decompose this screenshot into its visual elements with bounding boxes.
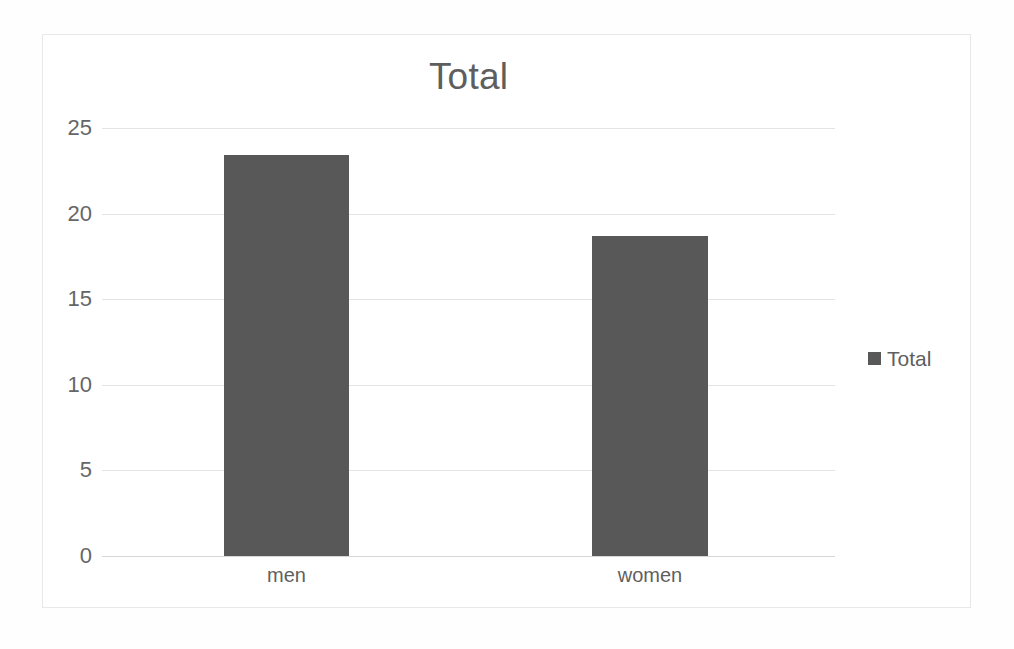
- legend-label-total: Total: [887, 348, 931, 369]
- y-tick-label-5: 5: [32, 459, 92, 481]
- y-tick-label-10: 10: [32, 374, 92, 396]
- y-tick-label-15: 15: [32, 288, 92, 310]
- y-tick-label-25: 25: [32, 117, 92, 139]
- plot-area: [102, 128, 835, 556]
- x-axis-tick-labels: menwomen: [102, 563, 835, 593]
- chart-legend: Total: [868, 348, 931, 369]
- bar-men: [224, 155, 349, 556]
- y-tick-label-0: 0: [32, 545, 92, 567]
- gridline-15: [102, 299, 835, 300]
- gridline-25: [102, 128, 835, 129]
- chart-title: Total: [102, 55, 835, 99]
- gridline-10: [102, 385, 835, 386]
- legend-swatch-total: [868, 352, 881, 365]
- gridline-5: [102, 470, 835, 471]
- x-tick-label-women: women: [570, 563, 730, 587]
- x-tick-label-men: men: [207, 563, 367, 587]
- gridline-20: [102, 214, 835, 215]
- chart-screenshot: Total 2520151050 menwomen Total: [0, 0, 1014, 649]
- bar-women: [592, 236, 708, 556]
- y-axis-tick-labels: 2520151050: [32, 128, 92, 556]
- gridline-0: [102, 556, 835, 557]
- y-tick-label-20: 20: [32, 203, 92, 225]
